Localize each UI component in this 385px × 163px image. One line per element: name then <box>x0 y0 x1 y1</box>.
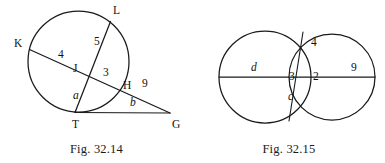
figure-32-15-caption: Fig. 32.15 <box>193 142 385 157</box>
figure-sheet: K L J H T G 4 5 3 9 a b Fig. 32.14 <box>0 0 385 163</box>
length-label-hg: 9 <box>142 77 148 89</box>
length-label-d: d <box>251 61 257 73</box>
figure-32-15-drawing: d 4 3 2 c 9 <box>193 0 385 140</box>
figure-32-14: K L J H T G 4 5 3 9 a b Fig. 32.14 <box>0 0 193 163</box>
figure-32-14-caption: Fig. 32.14 <box>0 142 193 157</box>
length-label-c: c <box>288 90 293 102</box>
length-label-9: 9 <box>351 61 357 73</box>
segment-tg-line <box>75 113 170 114</box>
length-label-jt: a <box>73 89 79 101</box>
point-label-G: G <box>172 118 180 130</box>
length-label-jl: 5 <box>94 35 100 47</box>
length-label-kj: 4 <box>58 48 64 60</box>
length-label-upper-4: 4 <box>311 36 317 48</box>
point-label-K: K <box>14 37 23 49</box>
point-label-H: H <box>123 79 131 91</box>
figure-32-15: d 4 3 2 c 9 Fig. 32.15 <box>193 0 385 163</box>
point-label-L: L <box>113 4 120 16</box>
length-label-jh: 3 <box>103 66 109 78</box>
figure-32-14-drawing: K L J H T G 4 5 3 9 a b <box>0 0 193 140</box>
point-label-T: T <box>72 118 79 130</box>
point-label-J: J <box>73 62 78 74</box>
length-label-right-2: 2 <box>313 70 319 82</box>
length-label-tg: b <box>130 96 136 108</box>
length-label-left-3: 3 <box>289 70 295 82</box>
